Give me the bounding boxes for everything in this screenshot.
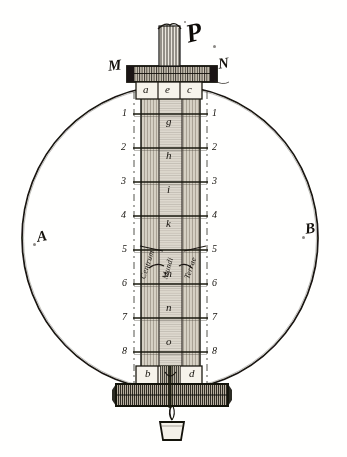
top-bar-right-end-label: N xyxy=(217,55,230,71)
top-cell-c: c xyxy=(187,84,192,95)
bottom-platform xyxy=(112,384,232,406)
shaft-letter-n: n xyxy=(166,302,172,313)
sphere-right-label: B xyxy=(304,220,316,236)
scale-right-4: 4 xyxy=(212,210,217,220)
top-cell-a: a xyxy=(143,84,149,95)
top-crossbar xyxy=(127,66,217,82)
scale-left-4: 4 xyxy=(121,210,126,220)
scale-right-5: 5 xyxy=(212,244,217,254)
top-finial-post xyxy=(158,24,181,66)
scale-left-8: 8 xyxy=(122,346,127,356)
ink-speck xyxy=(302,236,305,239)
engraving-plate: P M N a e c A B 1 2 3 4 5 6 7 8 1 2 3 4 … xyxy=(0,0,347,457)
scale-right-3: 3 xyxy=(212,176,217,186)
bottom-cell-d: d xyxy=(189,368,195,379)
scale-left-6: 6 xyxy=(122,278,127,288)
shaft-letter-o: o xyxy=(166,336,172,347)
shaft-letter-k: k xyxy=(166,218,171,229)
ink-speck xyxy=(213,45,216,48)
scale-left-5: 5 xyxy=(122,244,127,254)
scale-right-2: 2 xyxy=(212,142,217,152)
hanging-weight xyxy=(160,406,184,440)
shaft-letter-i: i xyxy=(167,184,170,195)
scale-right-1: 1 xyxy=(212,108,217,118)
scale-right-6: 6 xyxy=(212,278,217,288)
ink-speck xyxy=(33,243,36,246)
figure-artwork xyxy=(0,0,347,457)
scale-left-7: 7 xyxy=(122,312,127,322)
ink-speck xyxy=(184,21,186,23)
scale-left-3: 3 xyxy=(121,176,126,186)
scale-left-1: 1 xyxy=(122,108,127,118)
scale-right-8: 8 xyxy=(212,346,217,356)
scale-right-7: 7 xyxy=(212,312,217,322)
bottom-cell-b: b xyxy=(145,368,151,379)
shaft-letter-g: g xyxy=(166,116,172,127)
top-bar-left-end-label: M xyxy=(107,57,122,73)
top-cell-e: e xyxy=(165,84,170,95)
scale-left-2: 2 xyxy=(121,142,126,152)
shaft-letter-h: h xyxy=(166,150,172,161)
